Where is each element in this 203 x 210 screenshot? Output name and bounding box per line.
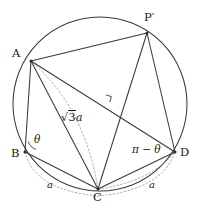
label-side-a-right: a — [149, 180, 155, 190]
segment-a-d — [31, 61, 175, 152]
label-point-d: D — [180, 147, 189, 159]
dashed-measure-arc-cd — [98, 152, 175, 196]
segment-a-b — [25, 61, 31, 152]
geometry-canvas — [0, 0, 203, 210]
vertex-dot-d — [174, 151, 177, 154]
label-side-a-left: a — [47, 180, 53, 190]
geometry-figure: A P′ B C D θ π − θ √3a a a — [0, 0, 203, 210]
vertex-dot-a — [30, 60, 33, 63]
radicand: 3 — [68, 110, 76, 124]
label-point-b: B — [11, 148, 19, 160]
segment-pprime-c — [98, 33, 147, 189]
segment-pprime-d — [147, 33, 175, 152]
segment-a-pprime — [31, 33, 147, 61]
segment-b-c — [25, 152, 98, 189]
label-point-pprime: P′ — [144, 12, 154, 24]
label-length-sqrt3a: √3a — [61, 112, 83, 123]
sqrt-variable: a — [76, 111, 83, 124]
segment-a-c — [31, 61, 98, 189]
label-angle-theta: θ — [34, 134, 40, 145]
label-point-a: A — [12, 48, 20, 60]
label-angle-pi-minus-theta: π − θ — [132, 144, 161, 155]
vertex-dot-b — [24, 151, 27, 154]
dashed-measure-arc-bc — [25, 152, 98, 196]
right-angle-marker — [106, 95, 111, 102]
vertex-dot-pprime — [146, 32, 149, 35]
radical-sign: √ — [61, 111, 68, 124]
label-point-c: C — [93, 192, 102, 204]
